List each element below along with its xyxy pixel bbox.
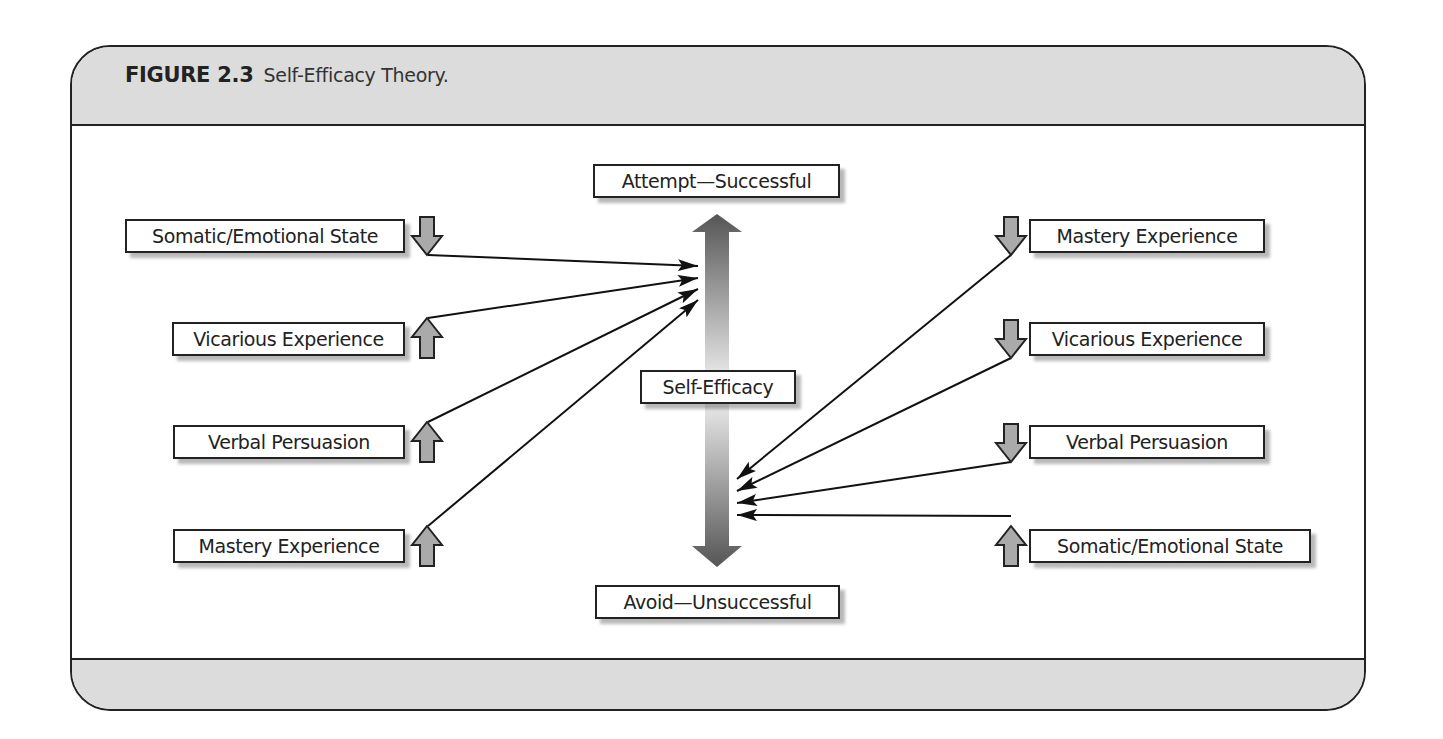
down-arrow-icon	[412, 217, 442, 255]
connector-left-mastery	[428, 300, 698, 526]
down-arrow-icon	[996, 424, 1026, 462]
right-source-somatic-emotional-state: Somatic/Emotional State	[1029, 529, 1311, 563]
up-arrow-icon	[412, 318, 442, 358]
outcome-attempt-successful: Attempt—Successful	[593, 164, 840, 198]
left-source-somatic-emotional-state: Somatic/Emotional State	[125, 219, 405, 253]
connector-left-vicarious	[428, 278, 698, 318]
source-label: Verbal Persuasion	[208, 431, 370, 453]
self-efficacy-label-box: Self-Efficacy	[640, 370, 796, 404]
right-source-verbal-persuasion: Verbal Persuasion	[1029, 425, 1265, 459]
connector-right-somatic	[737, 515, 1011, 516]
up-arrow-icon	[412, 526, 442, 566]
source-label: Vicarious Experience	[193, 328, 384, 350]
connector-left-somatic	[428, 255, 698, 266]
source-label: Mastery Experience	[199, 535, 380, 557]
right-source-mastery-experience: Mastery Experience	[1029, 219, 1265, 253]
source-label: Verbal Persuasion	[1066, 431, 1228, 453]
down-arrow-icon	[996, 320, 1026, 358]
left-source-vicarious-experience: Vicarious Experience	[172, 322, 405, 356]
outcome-avoid-unsuccessful: Avoid—Unsuccessful	[595, 585, 840, 619]
right-source-vicarious-experience: Vicarious Experience	[1029, 322, 1265, 356]
source-label: Somatic/Emotional State	[1057, 535, 1283, 557]
left-source-verbal-persuasion: Verbal Persuasion	[173, 425, 405, 459]
up-arrow-icon	[996, 526, 1026, 566]
left-source-mastery-experience: Mastery Experience	[173, 529, 405, 563]
up-arrow-icon	[412, 422, 442, 462]
outcome-label: Attempt—Successful	[622, 170, 812, 192]
connector-right-mastery	[737, 255, 1011, 479]
self-efficacy-label: Self-Efficacy	[663, 376, 774, 398]
outcome-label: Avoid—Unsuccessful	[623, 591, 811, 613]
source-label: Vicarious Experience	[1052, 328, 1243, 350]
down-arrow-icon	[996, 217, 1026, 255]
source-label: Mastery Experience	[1057, 225, 1238, 247]
source-label: Somatic/Emotional State	[152, 225, 378, 247]
connector-right-verbal	[737, 462, 1011, 503]
